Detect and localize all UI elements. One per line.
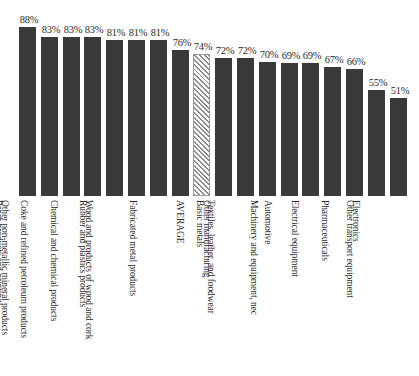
bar-group: 67%	[323, 8, 345, 196]
bar-value-label: 51%	[385, 85, 415, 96]
bar-group: 69%	[280, 8, 302, 196]
bar-group: 70%	[258, 8, 280, 196]
category-label: Electrical equipment	[290, 200, 300, 277]
bar-group: 88%	[18, 8, 40, 196]
bar-group: 69%	[301, 8, 323, 196]
bar	[390, 98, 407, 196]
category-label: Other transport equipment	[345, 200, 355, 298]
bar	[19, 27, 36, 196]
bar	[84, 37, 101, 196]
plot-area: 88%83%83%83%81%81%81%76%74%72%72%70%69%6…	[18, 8, 410, 196]
bar	[215, 58, 232, 196]
bar-group: 55%	[367, 8, 389, 196]
bar-group: 83%	[62, 8, 84, 196]
category-label-slot: Basic metals	[214, 198, 236, 376]
category-label-slot: Other transport equipment	[389, 198, 411, 376]
category-label: Chemical and chemical products	[49, 200, 59, 321]
bar	[302, 63, 319, 196]
bar	[281, 63, 298, 196]
category-label-slot: Electronics	[367, 198, 389, 376]
bar	[346, 69, 363, 196]
bar-group: 76%	[171, 8, 193, 196]
bar	[259, 62, 276, 196]
category-label-slot: Wood and products of wood and cork	[149, 198, 171, 376]
category-label: Automotive	[263, 200, 273, 244]
bar	[41, 37, 58, 196]
bar-group: 83%	[40, 8, 62, 196]
category-label: Pharmaceuticals	[320, 200, 330, 261]
bar-group: 74%	[192, 8, 214, 196]
bar-group: 72%	[214, 8, 236, 196]
category-label: Other non-metallic mineral products	[0, 200, 10, 335]
bar-group: 72%	[236, 8, 258, 196]
bar	[172, 50, 189, 196]
category-label: AVERAGE	[175, 200, 185, 243]
bar-chart: 88%83%83%83%81%81%81%76%74%72%72%70%69%6…	[0, 0, 419, 376]
category-label-slot: Chemical and chemical products	[105, 198, 127, 376]
bar	[324, 67, 341, 196]
bar-average	[193, 54, 210, 196]
category-labels-area: Food, beveragesPaper products and printi…	[18, 198, 410, 376]
bar-group: 66%	[345, 8, 367, 196]
category-label: Textiles, leather, and foodwear	[206, 200, 216, 314]
bar	[63, 37, 80, 196]
category-label: Machinery and equipment, nec	[249, 200, 259, 315]
bar	[150, 40, 167, 196]
category-label: Fabricated metal products	[128, 200, 138, 296]
bar	[368, 90, 385, 196]
bar	[128, 40, 145, 196]
category-label: Wood and products of wood and cork	[84, 200, 94, 339]
bar	[237, 58, 254, 196]
bar-group: 51%	[389, 8, 411, 196]
category-label: Coke and refined petroleum products	[19, 200, 29, 338]
bar	[106, 40, 123, 196]
